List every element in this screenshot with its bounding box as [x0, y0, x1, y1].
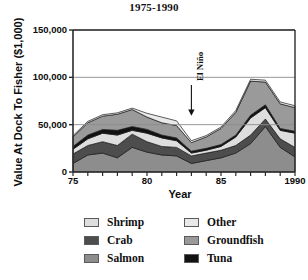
legend-item-groundfish[interactable]: Groundfish [184, 234, 264, 246]
legend-label-salmon: Salmon [107, 252, 144, 264]
legend-swatch-shrimp-icon [84, 218, 99, 227]
legend-item-other[interactable]: Other [184, 216, 236, 228]
legend-item-tuna[interactable]: Tuna [184, 252, 232, 264]
figure-panel: 1975-1990 Value At Dock To Fisher ($1,00… [0, 0, 308, 280]
legend-label-crab: Crab [107, 234, 133, 246]
legend-swatch-tuna-icon [184, 254, 199, 263]
legend-swatch-other-icon [184, 218, 199, 227]
legend-label-groundfish: Groundfish [207, 234, 264, 246]
chart-legend: ShrimpOtherCrabGroundfishSalmonTuna [0, 214, 308, 274]
legend-label-shrimp: Shrimp [107, 216, 144, 228]
legend-item-shrimp[interactable]: Shrimp [84, 216, 144, 228]
legend-label-tuna: Tuna [207, 252, 232, 264]
legend-item-salmon[interactable]: Salmon [84, 252, 144, 264]
legend-swatch-groundfish-icon [184, 236, 199, 245]
annotation-label-el-nino: El Niño [195, 52, 205, 81]
legend-item-crab[interactable]: Crab [84, 234, 133, 246]
legend-swatch-salmon-icon [84, 254, 99, 263]
legend-swatch-crab-icon [84, 236, 99, 245]
legend-label-other: Other [207, 216, 236, 228]
